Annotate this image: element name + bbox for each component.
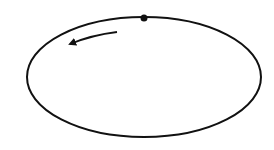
- orbit-point: [141, 15, 148, 22]
- orbit-ellipse: [27, 17, 261, 137]
- orbit-diagram: [0, 0, 274, 150]
- direction-arrow-icon: [70, 32, 117, 44]
